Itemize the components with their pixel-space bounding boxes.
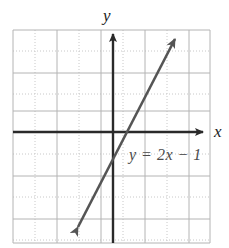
graph-figure: y x y = 2x − 1 — [0, 0, 229, 248]
equation-annotation: y = 2x − 1 — [129, 147, 202, 163]
x-axis-label: x — [214, 123, 222, 140]
coordinate-plane-svg — [0, 0, 229, 248]
y-axis-label: y — [103, 7, 111, 24]
plot-background — [13, 30, 210, 243]
